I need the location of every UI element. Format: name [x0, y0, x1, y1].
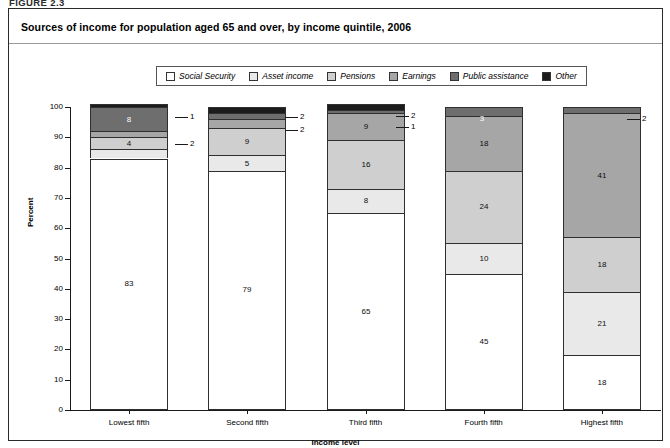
bar-segment[interactable]: 83 — [90, 159, 168, 410]
y-axis-tick — [65, 410, 70, 411]
callout-leader-line — [285, 117, 298, 118]
bar-segment-value: 9 — [364, 123, 368, 131]
figure-number: FIGURE 2.3 — [9, 0, 65, 7]
y-axis-tick-label: 100 — [37, 103, 63, 111]
bar-segment-value: 83 — [125, 280, 134, 288]
bar-segment-value: 8 — [127, 116, 131, 124]
y-axis-tick — [65, 380, 70, 381]
bar-stack[interactable]: 182118412 — [563, 107, 641, 410]
bar-segment[interactable]: 18 — [445, 116, 523, 171]
x-axis-title: Income level — [9, 438, 662, 447]
x-axis-category-label: Lowest fifth — [79, 418, 179, 427]
bar-segment-value: 4 — [127, 140, 131, 148]
bar-stack[interactable]: 65816912 — [327, 107, 405, 410]
y-axis-tick — [65, 319, 70, 320]
bar-segment[interactable]: 41 — [563, 113, 641, 237]
bar-segment-value: 79 — [243, 286, 252, 294]
bar-segment[interactable]: 1 — [327, 110, 405, 113]
bar-stack[interactable]: 451024183 — [445, 107, 523, 410]
bar-segment-value: 16 — [362, 161, 371, 169]
bar-segment-value: 65 — [362, 308, 371, 316]
x-axis-tick — [129, 410, 130, 414]
callout-value-label: 2 — [190, 140, 194, 148]
y-axis-title: Percent — [26, 198, 35, 227]
callout-leader-line — [396, 127, 409, 128]
y-axis-tick — [65, 107, 70, 108]
y-axis-tick — [65, 198, 70, 199]
bar-segment[interactable]: 3 — [208, 119, 286, 128]
callout-value-label: 1 — [411, 123, 415, 131]
callout-leader-line — [285, 130, 298, 131]
y-axis-tick-label: 20 — [37, 345, 63, 353]
bar-segment[interactable]: 9 — [208, 128, 286, 155]
bar-segment[interactable]: 10 — [445, 243, 523, 273]
bar-segment[interactable]: 4 — [90, 137, 168, 149]
x-axis-category-label: Second fifth — [197, 418, 297, 427]
bar-segment[interactable]: 8 — [90, 107, 168, 131]
y-axis-line — [70, 107, 71, 410]
x-axis-category-label: Third fifth — [316, 418, 416, 427]
callout-leader-line — [396, 116, 409, 117]
bar-segment-value: 10 — [480, 255, 489, 263]
x-axis-category-label: Fourth fifth — [434, 418, 534, 427]
y-axis-tick-label: 0 — [37, 406, 63, 414]
callout-value-label: 2 — [300, 113, 304, 121]
callout-value-label: 2 — [642, 115, 646, 123]
bar-segment-value: 5 — [245, 160, 249, 168]
bar-segment[interactable]: 5 — [208, 155, 286, 170]
y-axis-tick — [65, 289, 70, 290]
callout-leader-line — [175, 144, 188, 145]
y-axis-tick-label: 90 — [37, 133, 63, 141]
callout-value-label: 2 — [300, 126, 304, 134]
bar-segment[interactable]: 45 — [445, 274, 523, 410]
bar-segment-value: 45 — [480, 338, 489, 346]
y-axis-tick-label: 80 — [37, 164, 63, 172]
y-axis-tick-label: 70 — [37, 194, 63, 202]
bar-segment[interactable]: 2 — [208, 113, 286, 119]
y-axis-tick-label: 40 — [37, 285, 63, 293]
y-axis-tick-label: 30 — [37, 315, 63, 323]
callout-value-label: 3 — [480, 115, 484, 123]
x-axis-category-label: Highest fifth — [552, 418, 652, 427]
y-axis-tick — [65, 137, 70, 138]
y-axis-tick — [65, 349, 70, 350]
bar-segment-value: 18 — [598, 261, 607, 269]
bar-segment[interactable]: 2 — [327, 104, 405, 110]
x-axis-tick — [484, 410, 485, 414]
x-axis-tick — [366, 410, 367, 414]
figure-panel: Sources of income for population aged 65… — [8, 8, 663, 441]
bar-segment-value: 24 — [480, 203, 489, 211]
callout-leader-line — [175, 117, 188, 118]
bar-segment[interactable]: 24 — [445, 171, 523, 244]
callout-value-label: 1 — [190, 113, 194, 121]
bar-segment[interactable]: 9 — [327, 113, 405, 140]
bar-segment-value: 21 — [598, 320, 607, 328]
bar-segment[interactable]: 8 — [327, 189, 405, 213]
bar-segment[interactable]: 3 — [90, 149, 168, 158]
bar-segment-value: 18 — [480, 140, 489, 148]
bar-segment[interactable]: 21 — [563, 292, 641, 356]
x-axis-tick — [602, 410, 603, 414]
bar-stack[interactable]: 8334281 — [90, 107, 168, 410]
bar-segment[interactable]: 79 — [208, 171, 286, 410]
bar-segment[interactable]: 1 — [90, 104, 168, 107]
bar-segment[interactable]: 2 — [90, 131, 168, 137]
bar-segment[interactable]: 65 — [327, 213, 405, 410]
bar-segment[interactable]: 16 — [327, 140, 405, 188]
chart-plot-area: Percent Income level 0102030405060708090… — [9, 9, 662, 440]
y-axis-tick-label: 10 — [37, 376, 63, 384]
bar-segment[interactable]: 2 — [208, 107, 286, 113]
y-axis-tick-label: 60 — [37, 224, 63, 232]
bar-segment-value: 9 — [245, 138, 249, 146]
bar-segment[interactable]: 18 — [563, 237, 641, 292]
bar-segment-value: 41 — [598, 172, 607, 180]
bar-segment[interactable]: 2 — [563, 107, 641, 113]
y-axis-tick — [65, 259, 70, 260]
bar-stack[interactable]: 7959322 — [208, 107, 286, 410]
callout-value-label: 2 — [411, 112, 415, 120]
callout-leader-line — [627, 119, 640, 120]
bar-segment-value: 8 — [364, 197, 368, 205]
bar-segment[interactable]: 18 — [563, 355, 641, 410]
y-axis-tick — [65, 168, 70, 169]
y-axis-tick-label: 50 — [37, 255, 63, 263]
